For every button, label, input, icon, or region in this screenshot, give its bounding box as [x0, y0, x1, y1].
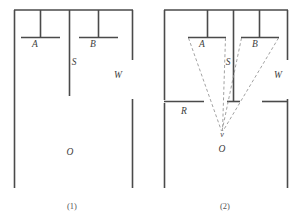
- panel2-slit-b-label: B: [252, 39, 258, 49]
- panel2-vertex-v-mark: v: [220, 130, 224, 139]
- panel2-ray-b-right: [223, 38, 279, 131]
- panel1-caption: (1): [67, 201, 77, 211]
- panel2-slit-a-label: A: [198, 39, 205, 49]
- optics-diagram-svg: A B S W O (1): [0, 0, 297, 217]
- panel1-wall-w-label: W: [114, 70, 123, 80]
- panel1-screen-s-label: S: [72, 57, 77, 67]
- panel2-observer-o-label: O: [219, 144, 226, 154]
- panel-2-group: A B S W R v O (2): [164, 10, 288, 211]
- figure-container: A B S W O (1): [0, 0, 297, 217]
- panel1-slit-a-label: A: [31, 39, 38, 49]
- panel2-ray-a-left: [189, 38, 222, 131]
- panel2-wall-w-label: W: [274, 70, 283, 80]
- panel2-ray-a-right: [223, 38, 226, 131]
- panel1-observer-o-label: O: [67, 147, 74, 157]
- panel-1-group: A B S W O (1): [14, 10, 133, 211]
- panel1-slit-b-label: B: [90, 39, 96, 49]
- panel2-screen-s-label: S: [226, 57, 231, 67]
- panel2-caption: (2): [220, 201, 230, 211]
- panel2-region-r-label: R: [180, 106, 187, 116]
